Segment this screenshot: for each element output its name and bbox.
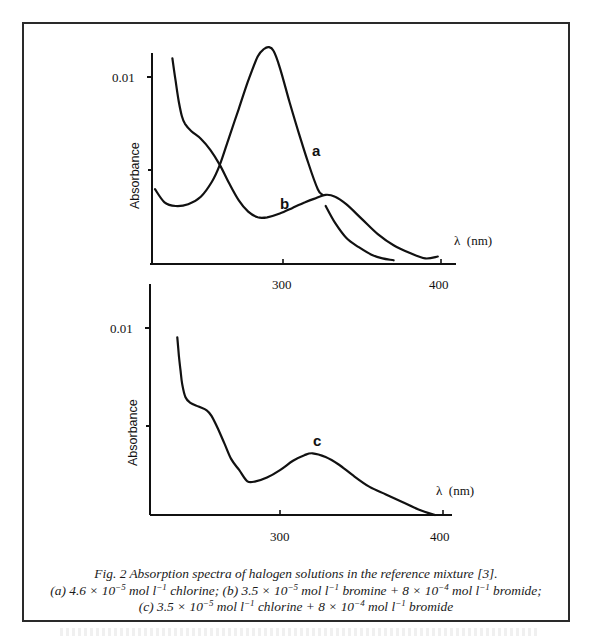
bottom-x-tick-label-300: 300 <box>270 529 290 544</box>
caption-text: mol l <box>365 599 396 614</box>
curve-b <box>172 58 437 258</box>
caption-text: mol l <box>126 583 157 598</box>
top-x-unit-label: λ (nm) <box>454 233 492 248</box>
figure-plots: 0.01 300 400 Absorbance λ (nm) a b 0.01 … <box>0 0 589 641</box>
caption-text: (c) 3.5 × 10 <box>139 599 203 614</box>
curve-label-c: c <box>313 432 321 449</box>
caption-exponent: −1 <box>479 582 490 592</box>
caption-text: mol l <box>449 583 480 598</box>
bottom-y-tick-label: 0.01 <box>110 321 133 336</box>
bottom-x-unit-label: λ (nm) <box>436 483 474 498</box>
caption-line-ab: (a) 4.6 × 10−5 mol l−1 chlorine; (b) 3.5… <box>22 583 570 600</box>
curve-label-b: b <box>280 195 289 212</box>
top-panel: 0.01 300 400 Absorbance λ (nm) a b <box>112 47 492 292</box>
curve-a-tail <box>326 206 394 260</box>
caption-text: mol l <box>298 583 329 598</box>
bottom-x-tick-label-400: 400 <box>430 529 450 544</box>
caption-exponent: −1 <box>328 582 339 592</box>
caption-exponent: −1 <box>395 598 406 608</box>
caption-exponent: −5 <box>287 582 298 592</box>
top-x-tick-label-300: 300 <box>272 277 292 292</box>
caption-exponent: −1 <box>156 582 167 592</box>
caption-exponent: −1 <box>244 598 255 608</box>
bleed-through-text <box>60 628 540 636</box>
caption-title: Fig. 2 Absorption spectra of halogen sol… <box>22 566 570 583</box>
top-y-axis-label: Absorbance <box>128 142 142 209</box>
caption-exponent: −5 <box>115 582 126 592</box>
caption-text: mol l <box>213 599 244 614</box>
caption-exponent: −4 <box>354 598 365 608</box>
caption-text: chlorine + 8 × 10 <box>255 599 355 614</box>
curve-label-a: a <box>312 142 321 159</box>
curve-a <box>155 47 323 206</box>
curve-c <box>177 337 435 515</box>
caption-text: bromine + 8 × 10 <box>339 583 438 598</box>
bottom-y-axis-label: Absorbance <box>126 399 140 466</box>
caption-text: bromide; <box>490 583 542 598</box>
caption-text: chlorine; <box>167 583 223 598</box>
caption-text: (a) 4.6 × 10 <box>50 583 115 598</box>
bottom-panel: 0.01 300 400 Absorbance λ (nm) c <box>110 284 474 544</box>
caption-line-c: (c) 3.5 × 10−5 mol l−1 chlorine + 8 × 10… <box>22 599 570 616</box>
caption-exponent: −4 <box>438 582 449 592</box>
caption-text: (b) 3.5 × 10 <box>223 583 288 598</box>
caption-exponent: −5 <box>203 598 214 608</box>
figure-caption: Fig. 2 Absorption spectra of halogen sol… <box>22 566 570 616</box>
top-y-tick-label: 0.01 <box>112 70 135 85</box>
caption-text: bromide <box>406 599 453 614</box>
top-x-tick-label-400: 400 <box>429 277 449 292</box>
